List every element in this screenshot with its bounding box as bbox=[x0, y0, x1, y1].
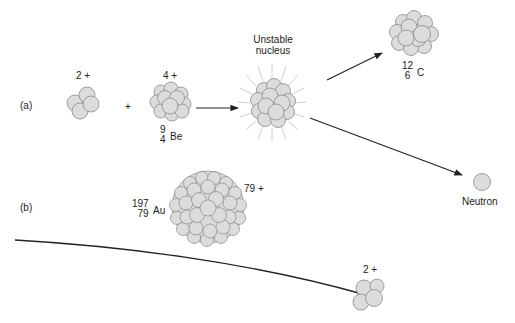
alpha-charge-b: 2 + bbox=[363, 264, 377, 275]
beryllium-atomic-number: 4 bbox=[160, 135, 166, 145]
arrow-to-carbon bbox=[327, 53, 382, 80]
carbon-atomic-number: 6 bbox=[402, 71, 413, 81]
alpha-particle-a bbox=[67, 87, 99, 119]
carbon-symbol: C bbox=[417, 67, 424, 78]
unstable-label-line1: Unstable bbox=[248, 34, 298, 45]
beryllium-symbol: Be bbox=[170, 131, 182, 142]
panel-b-label: (b) bbox=[20, 202, 32, 213]
neutron-particle bbox=[474, 174, 491, 191]
beryllium-nucleus bbox=[150, 82, 191, 121]
unstable-label-line2: nucleus bbox=[248, 45, 298, 56]
gold-isotope: 197 79 bbox=[132, 199, 149, 219]
gold-symbol: Au bbox=[153, 205, 165, 216]
beryllium-charge: 4 + bbox=[163, 70, 177, 81]
alpha-trajectory bbox=[15, 240, 366, 295]
unstable-nucleus-label: Unstable nucleus bbox=[248, 34, 298, 56]
alpha-particle-b bbox=[353, 279, 384, 310]
carbon-isotope: 12 6 bbox=[402, 61, 413, 81]
figure-canvas: (a) 2 + + 4 + 9 4 Be Unstable nucleus 12… bbox=[0, 0, 515, 323]
alpha-charge-a: 2 + bbox=[76, 70, 90, 81]
panel-a-label: (a) bbox=[20, 100, 32, 111]
beryllium-isotope: 9 4 bbox=[160, 125, 166, 145]
arrow-to-neutron bbox=[310, 118, 462, 175]
plus-sign: + bbox=[125, 101, 131, 112]
neutron-label: Neutron bbox=[462, 196, 498, 207]
gold-charge: 79 + bbox=[244, 183, 264, 194]
unstable-nucleus bbox=[251, 79, 296, 128]
carbon-nucleus bbox=[390, 11, 439, 56]
gold-atomic-number: 79 bbox=[132, 209, 149, 219]
gold-nucleus bbox=[170, 171, 247, 247]
